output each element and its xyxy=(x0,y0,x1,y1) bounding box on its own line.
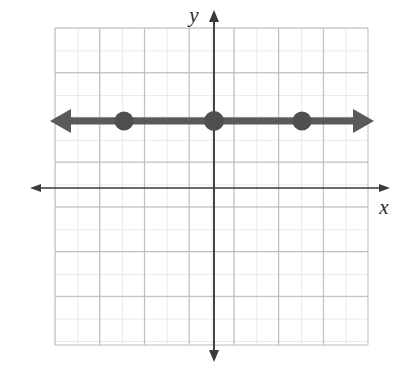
grid-group xyxy=(55,28,368,345)
data-point xyxy=(115,112,134,131)
data-point xyxy=(293,112,312,131)
coordinate-plane-figure: y x xyxy=(0,0,399,372)
data-point xyxy=(204,111,224,131)
graph-canvas: y x xyxy=(0,0,399,372)
y-axis-label: y xyxy=(187,3,199,27)
x-axis-label: x xyxy=(378,195,389,219)
grid-fill xyxy=(55,28,368,345)
